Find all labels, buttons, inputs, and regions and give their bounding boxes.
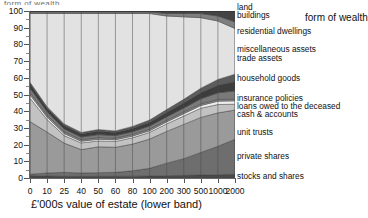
x-tick-label: 25 xyxy=(59,187,68,196)
y-tick-label: 70 xyxy=(14,57,23,66)
legend-item-unit-trusts: unit trusts xyxy=(237,128,273,137)
x-tick-mark xyxy=(115,179,116,183)
y-tick-label: 100 xyxy=(9,7,23,16)
x-tick-mark xyxy=(64,179,65,183)
legend-item-label: unit trusts xyxy=(237,127,273,137)
x-tick-label: 50 xyxy=(94,187,103,196)
y-tick-label: 30 xyxy=(14,124,23,133)
x-tick-label: 0 xyxy=(28,187,33,196)
stacked-area-svg xyxy=(30,11,235,178)
x-tick-label: 200 xyxy=(160,187,174,196)
legend-item-private-shares: private shares xyxy=(237,152,289,161)
x-tick-label: 100 xyxy=(142,187,156,196)
x-tick-mark xyxy=(184,179,185,183)
x-tick-mark xyxy=(81,179,82,183)
legend: landbuildingsresidential dwellingsmiscel… xyxy=(237,0,365,190)
legend-item-buildings: buildings xyxy=(237,11,270,20)
legend-item-trade-assets: trade assets xyxy=(237,54,282,63)
x-axis-label: £'000s value of estate (lower band) xyxy=(31,198,202,211)
y-tick-label: 50 xyxy=(14,91,23,100)
x-tick-mark xyxy=(235,179,236,183)
x-tick-label: 40 xyxy=(77,187,86,196)
legend-title: form of wealth xyxy=(305,12,368,23)
legend-item-label: trade assets xyxy=(237,53,282,63)
y-tick-label: 0 xyxy=(18,174,23,183)
y-tick-label: 90 xyxy=(14,24,23,33)
y-tick-label: 10 xyxy=(14,157,23,166)
x-tick-label: 10 xyxy=(42,187,51,196)
x-tick-mark xyxy=(150,179,151,183)
chart-plot-area xyxy=(30,11,235,178)
legend-item-cash-accounts: cash & accounts xyxy=(237,110,298,119)
x-tick-label: 1000 xyxy=(208,187,227,196)
y-tick-label: 20 xyxy=(14,141,23,150)
x-tick-mark xyxy=(30,179,31,183)
legend-item-residential-dwellings: residential dwellings xyxy=(237,27,311,36)
x-tick-mark xyxy=(98,179,99,183)
legend-item-household-goods: household goods xyxy=(237,74,300,83)
legend-item-label: residential dwellings xyxy=(237,26,311,36)
clipped-header-text: form of wealth xyxy=(4,0,124,5)
legend-item-label: cash & accounts xyxy=(237,109,298,119)
legend-item-label: household goods xyxy=(237,73,300,83)
legend-item-label: buildings xyxy=(237,10,270,20)
legend-item-label: private shares xyxy=(237,151,289,161)
y-axis: 0102030405060708090100 xyxy=(0,11,30,178)
x-tick-mark xyxy=(133,179,134,183)
x-tick-mark xyxy=(47,179,48,183)
x-tick-label: 60 xyxy=(111,187,120,196)
x-tick-label: 300 xyxy=(177,187,191,196)
legend-item-label: stocks and shares xyxy=(237,171,304,181)
x-tick-mark xyxy=(218,179,219,183)
legend-item-stocks-and-shares: stocks and shares xyxy=(237,172,304,181)
x-tick-label: 500 xyxy=(194,187,208,196)
x-tick-mark xyxy=(201,179,202,183)
y-tick-label: 60 xyxy=(14,74,23,83)
x-tick-mark xyxy=(167,179,168,183)
y-tick-label: 80 xyxy=(14,40,23,49)
y-tick-label: 40 xyxy=(14,107,23,116)
x-tick-label: 80 xyxy=(128,187,137,196)
